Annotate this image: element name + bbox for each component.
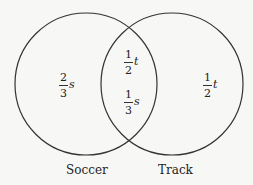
denominator: 2 (203, 88, 212, 99)
track-only-fraction: 1 2 t (203, 72, 217, 99)
soccer-circle (15, 13, 157, 155)
variable: t (213, 79, 217, 90)
soccer-label: Soccer (66, 164, 108, 176)
denominator: 3 (124, 105, 133, 116)
variable: t (134, 56, 138, 67)
fraction-bar (59, 85, 68, 86)
numerator: 2 (59, 72, 68, 83)
fraction-bar (124, 62, 133, 63)
fraction-bar (203, 85, 212, 86)
soccer-only-fraction: 2 3 s (59, 72, 75, 99)
intersection-fraction-t: 1 2 t (124, 49, 138, 76)
denominator: 2 (124, 65, 133, 76)
intersection-fraction-s: 1 3 s (124, 89, 140, 116)
numerator: 1 (124, 89, 133, 100)
denominator: 3 (59, 88, 68, 99)
track-circle (101, 13, 243, 155)
numerator: 1 (203, 72, 212, 83)
numerator: 1 (124, 49, 133, 60)
track-label: Track (158, 164, 193, 176)
fraction-bar (124, 102, 133, 103)
variable: s (134, 96, 140, 107)
variable: s (69, 79, 75, 90)
